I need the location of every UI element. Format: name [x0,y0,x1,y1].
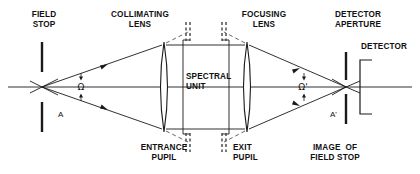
label-field-stop: FIELD STOP [32,10,56,29]
label-detector-aperture: DETECTOR APERTURE [335,10,381,29]
label-spectral-unit: SPECTRAL UNIT [186,72,231,91]
label-entrance-pupil: ENTRANCE PUPIL [141,143,188,162]
collimating-lens [161,42,168,132]
label-image-of-field-stop: IMAGE OF FIELD STOP [310,143,360,162]
label-focusing-lens: FOCUSING LENS [242,10,286,29]
label-area-a: A [58,110,63,119]
label-exit-pupil: EXIT PUPIL [233,143,258,162]
focusing-lens [244,42,251,132]
label-area-a-prime: A' [330,110,337,119]
optical-diagram: FIELD STOP COLLIMATING LENS FOCUSING LEN… [0,0,420,174]
label-solid-angle-omega-prime: Ω' [298,82,307,92]
label-detector: DETECTOR [361,42,407,52]
label-collimating-lens: COLLIMATING LENS [111,10,169,29]
label-solid-angle-omega: Ω [78,82,85,92]
